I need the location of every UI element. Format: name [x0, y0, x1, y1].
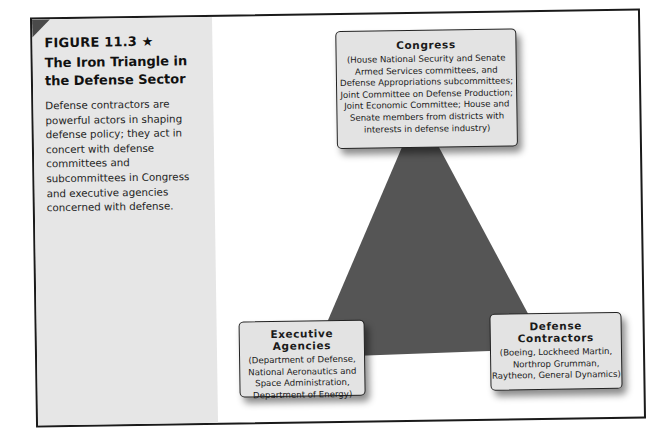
node-title: Defense Contractors [491, 319, 621, 345]
node-defense-contractors: Defense Contractors (Boeing, Lockheed Ma… [489, 312, 622, 391]
node-title: Executive Agencies [240, 327, 364, 353]
node-description: (House National Security and Senate Arme… [337, 52, 517, 136]
node-description: (Boeing, Lockheed Martin, Northrop Grumm… [491, 346, 622, 383]
node-description: (Department of Defense, National Aeronau… [240, 354, 365, 402]
figure-frame: FIGURE 11.3 ★ The Iron Triangle in the D… [30, 8, 646, 427]
node-title: Congress [336, 37, 515, 52]
node-executive-agencies: Executive Agencies (Department of Defens… [239, 320, 366, 398]
node-congress: Congress (House National Security and Se… [335, 28, 518, 149]
